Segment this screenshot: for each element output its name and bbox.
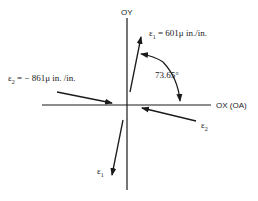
strain-diagram: OY OX (OA) ε1 = 601μ in./in. 73.65° ε2 =… <box>0 0 258 201</box>
strain-1-label: ε1 = 601μ in./in. <box>149 28 207 40</box>
angle-arc-start <box>141 54 163 62</box>
y-axis-label: OY <box>121 8 133 17</box>
strain-1-arrow-up <box>130 37 141 92</box>
x-axis-label: OX (OA) <box>216 101 247 110</box>
strain-2-arrow-right <box>142 108 196 121</box>
strain-2-arrow-left <box>57 92 112 103</box>
angle-arc <box>163 62 180 101</box>
strain-2-lower-label: ε2 <box>201 120 208 132</box>
angle-label: 73.65° <box>155 70 179 80</box>
strain-1-lower-label: ε1 <box>97 166 104 178</box>
strain-1-arrow-down <box>112 120 123 175</box>
strain-2-label: ε2 = − 861μ in. /in. <box>8 73 76 85</box>
